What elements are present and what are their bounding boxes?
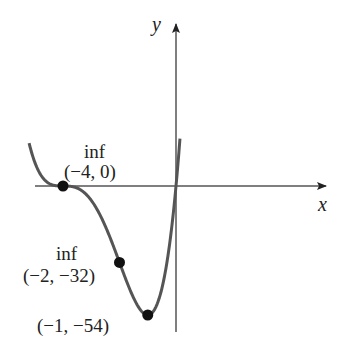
point-1-coord: (−4, 0) (64, 162, 116, 181)
x-axis-label: x (318, 194, 327, 214)
point-3-coord: (−1, −54) (37, 316, 109, 335)
point-1-marker (58, 181, 69, 192)
point-3-marker (142, 310, 153, 321)
point-2-note: inf (56, 244, 77, 263)
point-2-marker (114, 257, 125, 268)
point-2-coord: (−2, −32) (23, 266, 95, 285)
function-graph (0, 0, 349, 352)
y-axis-label: y (152, 14, 161, 34)
point-1-note: inf (84, 142, 105, 161)
